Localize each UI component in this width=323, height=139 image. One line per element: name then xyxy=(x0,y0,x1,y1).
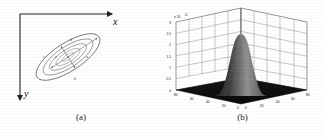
annotation-label-c: c xyxy=(43,54,45,59)
annotation-label-b: b xyxy=(74,76,76,81)
z-tick-4: 2 xyxy=(169,43,171,47)
annotation-label-d: d xyxy=(70,37,73,42)
z-tick-5: 2.5 xyxy=(167,32,172,36)
z-axis-ticks: 0 0.5 1 1.5 2 2.5 3 xyxy=(167,21,172,93)
z-tick-2: 1 xyxy=(169,66,171,70)
y-tick-0: 0 xyxy=(245,106,247,110)
panel-a-caption: (a) xyxy=(0,112,162,122)
panel-b: x 10 -3 0 0.5 1 1.5 2 2.5 3 80 60 40 20 … xyxy=(162,0,323,139)
annotation-label-a: a xyxy=(86,54,88,59)
x-tick-20: 20 xyxy=(222,104,226,108)
x-tick-40: 40 xyxy=(206,100,210,104)
panel-b-surface-plot: x 10 -3 0 0.5 1 1.5 2 2.5 3 80 60 40 20 … xyxy=(162,0,323,112)
inner-measure-line xyxy=(51,57,68,68)
x-tick-0: 0 xyxy=(237,106,239,110)
x-tick-60: 60 xyxy=(190,97,194,101)
z-axis-exponent: x 10 -3 xyxy=(174,13,187,19)
figure-container: x y a b c d e (a) xyxy=(0,0,323,139)
y-tick-20: 20 xyxy=(260,104,264,108)
annotation-label-e: e xyxy=(55,54,57,59)
z-tick-6: 3 xyxy=(169,21,171,25)
y-tick-40: 40 xyxy=(276,100,280,104)
z-exponent-power: -3 xyxy=(184,13,187,17)
ellipse-contour-group xyxy=(29,25,106,89)
y-tick-80: 80 xyxy=(306,93,310,97)
panel-b-caption: (b) xyxy=(162,112,323,122)
x-axis-label: x xyxy=(112,16,118,27)
panel-a: x y a b c d e (a) xyxy=(0,0,162,139)
z-tick-0: 0 xyxy=(169,89,171,93)
x-tick-80: 80 xyxy=(174,93,178,97)
y-axis-label: y xyxy=(23,88,29,99)
y-tick-60: 60 xyxy=(291,97,295,101)
z-exponent-base: x 10 xyxy=(174,15,181,19)
panel-a-drawing: x y a b c d e xyxy=(0,0,162,112)
z-tick-1: 0.5 xyxy=(167,77,172,81)
z-tick-3: 1.5 xyxy=(167,55,172,59)
